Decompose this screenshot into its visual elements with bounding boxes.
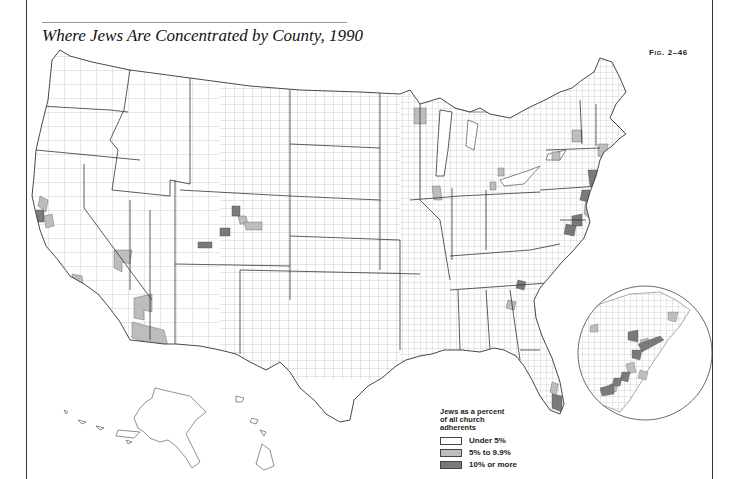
us-county-map [0,0,740,479]
legend-label: Under 5% [469,437,506,445]
legend-item-10-or-more: 10% or more [440,459,517,470]
alaska [64,388,206,468]
northeast-inset [576,286,712,420]
legend-title-line: adherents [440,424,510,432]
legend-swatch-white [440,437,462,445]
legend-swatch-dark-gray [440,461,462,469]
legend-swatch-light-gray [440,449,462,457]
hawaii [236,396,274,470]
conterminous-us [20,40,640,440]
legend-label: 5% to 9.9% [469,449,511,457]
legend-item-under-5: Under 5% [440,435,517,446]
legend-label: 10% or more [469,461,517,469]
legend-title: Jews as a percent of all church adherent… [440,408,510,432]
legend-item-5-to-9-9: 5% to 9.9% [440,447,517,458]
map-legend: Jews as a percent of all church adherent… [440,408,517,471]
